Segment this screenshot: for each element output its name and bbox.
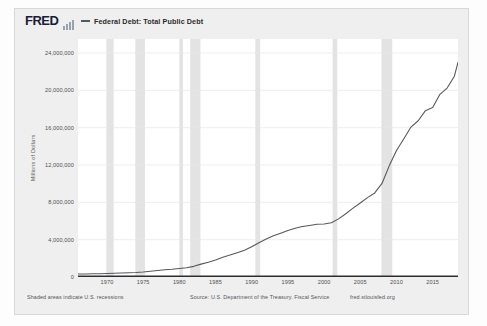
series-line-federal-debt: [78, 62, 458, 274]
y-axis-tick-label: 16,000,000: [45, 125, 74, 131]
recession-band: [135, 39, 145, 277]
y-axis-title-text: Millions of Dollars: [30, 134, 36, 181]
footer-source: Source: U.S. Department of the Treasury.…: [190, 294, 329, 300]
chart-footer: Shaded areas indicate U.S. recessions So…: [15, 294, 468, 306]
y-axis-tick-label: 24,000,000: [45, 50, 74, 56]
legend-series-label: Federal Debt: Total Public Debt: [94, 17, 203, 26]
recession-band: [333, 39, 338, 277]
recession-band: [179, 39, 183, 277]
x-axis-tick-label: 1975: [137, 279, 150, 285]
footer-url: fred.stlouisfed.org: [350, 294, 395, 300]
x-axis-tick-label: 1995: [281, 279, 294, 285]
y-axis-ticks: 04,000,0008,000,00012,000,00016,000,0002…: [37, 35, 77, 280]
footer-recession-note: Shaded areas indicate U.S. recessions: [27, 294, 124, 300]
x-axis-tick-label: 1980: [173, 279, 186, 285]
fred-chart-card: FRED Federal Debt: Total Public Debt Mil…: [14, 8, 469, 315]
gridlines: [78, 53, 458, 240]
fred-logo: FRED: [25, 14, 58, 28]
y-axis-tick-label: 4,000,000: [48, 237, 74, 243]
series-chart: [78, 39, 458, 277]
x-axis-tick-label: 2000: [318, 279, 331, 285]
recession-band: [190, 39, 200, 277]
plot-area: [78, 39, 458, 277]
recession-band: [255, 39, 260, 277]
chart-legend: Federal Debt: Total Public Debt: [81, 15, 203, 27]
plot-region: Millions of Dollars 04,000,0008,000,0001…: [25, 35, 460, 280]
y-axis-tick-label: 8,000,000: [48, 199, 74, 205]
x-axis-tick-label: 1990: [245, 279, 258, 285]
recession-bands: [106, 39, 392, 277]
y-axis-tick-label: 20,000,000: [45, 87, 74, 93]
legend-color-swatch: [81, 20, 90, 22]
scanned-page: FRED Federal Debt: Total Public Debt Mil…: [0, 0, 487, 326]
sparkline-icon: [63, 16, 74, 26]
x-axis-tick-label: 2015: [426, 279, 439, 285]
recession-band: [381, 39, 392, 277]
y-axis-tick-label: 0: [71, 274, 74, 280]
x-axis-tick-label: 1970: [101, 279, 114, 285]
y-axis-tick-label: 12,000,000: [45, 162, 74, 168]
recession-band: [106, 39, 113, 277]
x-axis-ticks: 1970197519801985199019952000200520102015: [78, 279, 458, 291]
chart-header: FRED Federal Debt: Total Public Debt: [15, 9, 468, 35]
x-axis-tick-label: 1985: [209, 279, 222, 285]
x-axis-tick-label: 2005: [354, 279, 367, 285]
x-axis-tick-label: 2010: [390, 279, 403, 285]
